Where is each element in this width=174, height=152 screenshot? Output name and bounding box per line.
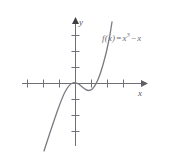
x-axis-label: x [138, 88, 142, 98]
function-variable-2: x [137, 33, 141, 43]
x-axis-arrow-icon [141, 80, 148, 87]
function-name: f(x) [102, 33, 115, 43]
equals-sign: = [115, 33, 122, 43]
function-annotation: f(x)=x3−x [102, 33, 141, 43]
figure-container: f(x)=x3−x y x [0, 0, 174, 152]
y-axis-arrow-icon [72, 17, 79, 24]
y-axis-label: y [79, 17, 83, 27]
cubic-plot [0, 0, 174, 152]
